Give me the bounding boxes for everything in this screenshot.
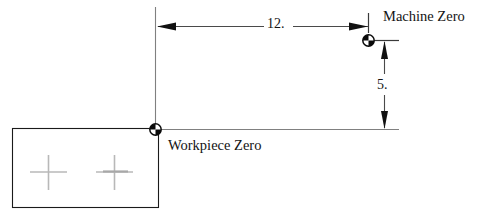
dimension-label-vertical: 5. [377,78,388,92]
dimension-horizontal-12 [157,23,368,31]
workpiece-zero-symbol [150,124,162,136]
arrowhead-left [157,23,176,31]
dimension-label-horizontal: 12. [267,17,285,31]
diagram-canvas: Machine Zero Workpiece Zero 12. 5. [0,0,489,217]
workpiece-rectangle [13,129,159,208]
arrowhead-down [381,111,388,129]
crosshair-right [96,155,133,190]
arrowhead-up [381,41,388,59]
machine-zero-label: Machine Zero [383,9,465,24]
workpiece-zero-label: Workpiece Zero [168,138,261,153]
crosshair-left [30,155,67,190]
arrowhead-right [349,23,368,31]
machine-zero-symbol [363,35,375,47]
diagram-vector-layer [0,0,489,217]
